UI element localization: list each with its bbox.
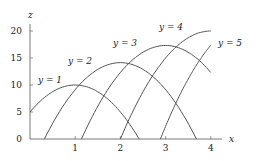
curve-y1: [30, 85, 139, 139]
series-label-y4: y = 4: [158, 22, 183, 32]
x-tick-label: 2: [118, 143, 124, 153]
x-tick-label: 1: [72, 143, 78, 153]
x-tick-label: 4: [208, 143, 214, 153]
x-axis-title: x: [229, 134, 234, 144]
z-tick-label: 20: [11, 26, 23, 36]
z-axis-title: z: [27, 10, 33, 20]
series-label-y1: y = 1: [37, 75, 62, 85]
z-tick-label: 10: [11, 80, 23, 90]
line-chart: 123405101520 x z y = 1 y = 2 y = 3 y = 4…: [0, 0, 256, 161]
curve-y3: [82, 46, 211, 140]
series-label-y3: y = 3: [112, 38, 137, 48]
series-label-y5: y = 5: [217, 38, 242, 48]
series-label-y2: y = 2: [67, 56, 92, 66]
z-tick-label: 0: [16, 134, 22, 144]
z-tick-label: 5: [16, 107, 22, 117]
curve-y2: [44, 63, 196, 139]
z-tick-label: 15: [11, 53, 23, 63]
x-tick-label: 3: [163, 143, 169, 153]
